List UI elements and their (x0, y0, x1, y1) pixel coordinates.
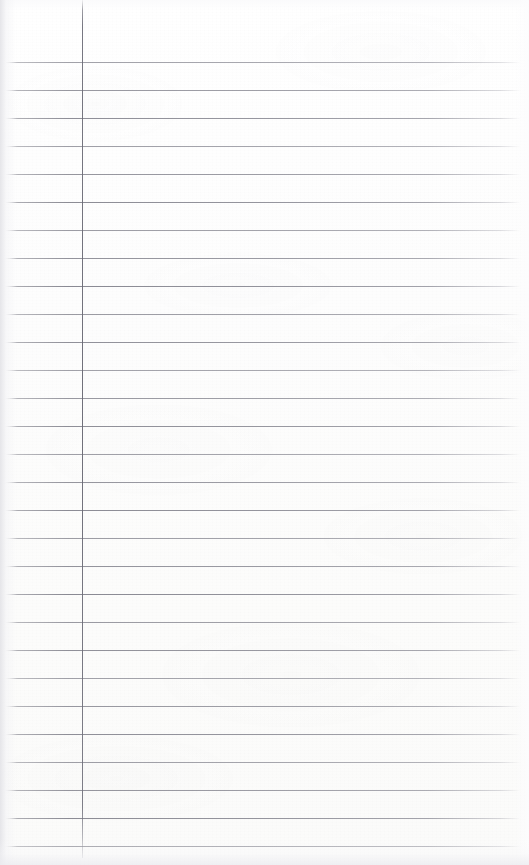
scan-edge-shadow-right (515, 0, 529, 865)
scan-edge-shadow-left (0, 0, 16, 865)
scan-edge-shadow-bottom (0, 839, 529, 865)
ruled-writing-area (0, 0, 529, 865)
notebook-page (0, 0, 529, 865)
scan-edge-shadow-top (0, 0, 529, 10)
